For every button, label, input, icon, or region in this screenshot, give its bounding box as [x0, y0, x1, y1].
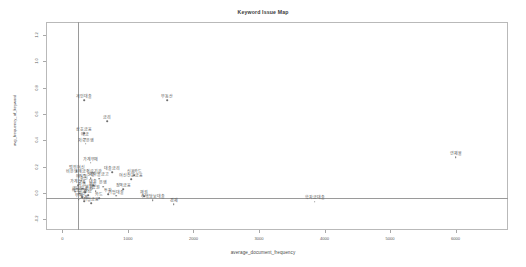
- x-tick: [62, 230, 63, 233]
- data-point-label: 금리: [103, 114, 111, 120]
- data-point[interactable]: [83, 200, 85, 202]
- data-point-label: 은행: [99, 179, 107, 185]
- data-point[interactable]: [92, 188, 94, 190]
- x-tick-label: 0: [61, 236, 63, 241]
- data-point-label: 주택담보대출: [141, 193, 164, 199]
- y-tick: [43, 88, 46, 89]
- data-point[interactable]: [455, 156, 457, 158]
- data-point-label: 부채: [75, 192, 83, 198]
- x-tick: [325, 230, 326, 233]
- data-point-label: 학자금대출: [305, 194, 325, 200]
- y-tick: [43, 140, 46, 141]
- x-tick-label: 2000: [189, 236, 198, 241]
- horizontal-reference-line: [46, 198, 508, 199]
- data-point-label: 정책금융: [116, 182, 132, 188]
- data-point-label: 예적금: [76, 173, 88, 179]
- chart-title: Keyword Issue Map: [0, 9, 526, 15]
- data-point[interactable]: [106, 121, 108, 123]
- data-point[interactable]: [166, 100, 168, 102]
- data-point[interactable]: [173, 204, 175, 206]
- data-point[interactable]: [314, 201, 316, 203]
- data-point[interactable]: [98, 198, 100, 200]
- data-point-label: 새마을금고: [89, 171, 109, 177]
- y-tick-label: 0.6: [34, 111, 39, 117]
- data-point-label: 연체율: [450, 150, 462, 156]
- x-tick: [193, 230, 194, 233]
- data-point[interactable]: [115, 195, 117, 197]
- data-point-label: 여신전문금융: [119, 172, 142, 178]
- data-point[interactable]: [87, 194, 89, 196]
- x-tick-label: 6000: [451, 236, 460, 241]
- y-tick: [43, 193, 46, 194]
- y-tick-label: 0.4: [34, 138, 39, 144]
- data-point[interactable]: [90, 162, 92, 164]
- data-point-label: 기업대출: [108, 189, 124, 195]
- data-point[interactable]: [83, 100, 85, 102]
- y-tick-label: 1.2: [34, 32, 39, 38]
- x-tick: [259, 230, 260, 233]
- data-point-label: 경제: [170, 197, 178, 203]
- y-tick-label: -0.2: [34, 216, 39, 223]
- data-point-label: 대출금리: [104, 165, 120, 171]
- y-tick-label: 0.0: [34, 190, 39, 196]
- x-axis-label: average_document_frequency: [0, 250, 526, 255]
- x-tick: [456, 230, 457, 233]
- data-point-label: 저축은행: [78, 137, 94, 143]
- x-tick-label: 3000: [254, 236, 263, 241]
- data-point-label: 부동산: [161, 93, 173, 99]
- data-point[interactable]: [130, 179, 132, 181]
- y-tick-label: 1.0: [34, 59, 39, 65]
- data-point-label: 개인대출: [76, 93, 92, 99]
- x-tick-label: 4000: [320, 236, 329, 241]
- plot-area: [46, 22, 508, 230]
- y-tick: [43, 167, 46, 168]
- data-point[interactable]: [81, 180, 83, 182]
- data-point[interactable]: [152, 200, 154, 202]
- x-tick: [128, 230, 129, 233]
- data-point-label: 연금: [84, 188, 92, 194]
- data-point[interactable]: [90, 202, 92, 204]
- data-point[interactable]: [85, 143, 87, 145]
- y-tick: [43, 61, 46, 62]
- y-tick: [43, 35, 46, 36]
- data-point-label: 금융: [72, 185, 80, 191]
- chart-figure: Keyword Issue Map 0100020003000400050006…: [0, 0, 526, 267]
- data-point[interactable]: [111, 171, 113, 173]
- y-axis-label: avg_frequency_of_keyword: [12, 61, 17, 181]
- x-tick-label: 1000: [123, 236, 132, 241]
- y-tick-label: 0.8: [34, 85, 39, 91]
- data-point[interactable]: [75, 191, 77, 193]
- data-point-label: 펀드: [89, 181, 97, 187]
- y-tick: [43, 114, 46, 115]
- x-tick-label: 5000: [385, 236, 394, 241]
- x-tick: [390, 230, 391, 233]
- data-point-label: 카드: [95, 191, 103, 197]
- y-tick-label: 0.2: [34, 164, 39, 170]
- data-point-label: 가계부채: [83, 156, 99, 162]
- y-tick: [43, 219, 46, 220]
- data-point[interactable]: [78, 198, 80, 200]
